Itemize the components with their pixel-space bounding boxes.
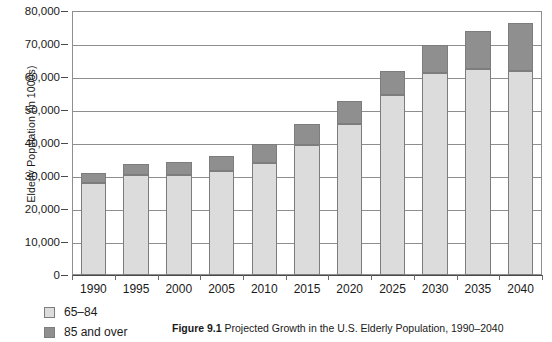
x-tick-mark [72, 275, 73, 280]
bar-segment-65-84[interactable] [166, 175, 192, 275]
bar-segment-65-84[interactable] [508, 71, 534, 275]
figure-caption: Figure 9.1 Projected Growth in the U.S. … [172, 322, 550, 335]
bar-segment-65-84[interactable] [81, 183, 107, 275]
bar-segment-85-and-over[interactable] [294, 124, 320, 145]
y-axis-ticks: 80,00070,00060,00050,00040,00030,00020,0… [0, 0, 72, 342]
figure-caption-text: Projected Growth in the U.S. Elderly Pop… [222, 322, 504, 334]
bar-segment-85-and-over[interactable] [252, 144, 278, 162]
x-tick-label: 2030 [422, 282, 449, 296]
x-tick-label: 2020 [336, 282, 363, 296]
x-tick-label: 1995 [123, 282, 150, 296]
x-tick-label: 2035 [465, 282, 492, 296]
y-tick-label: 80,000 [25, 5, 60, 17]
bar-segment-85-and-over[interactable] [422, 45, 448, 72]
y-tick-label: 60,000 [25, 71, 60, 83]
y-tick-label: 10,000 [25, 236, 60, 248]
y-tick-label: 30,000 [25, 170, 60, 182]
x-tick-mark [286, 275, 287, 280]
bar-segment-65-84[interactable] [252, 163, 278, 276]
bar-segment-65-84[interactable] [465, 69, 491, 275]
x-tick-label: 2025 [379, 282, 406, 296]
y-tick-label: 40,000 [25, 137, 60, 149]
bar-segment-85-and-over[interactable] [465, 31, 491, 69]
bar-group[interactable] [294, 11, 320, 275]
bar-segment-65-84[interactable] [337, 124, 363, 276]
bar-group[interactable] [166, 11, 192, 275]
legend-swatch-icon [44, 307, 55, 318]
y-tick-label: 20,000 [25, 203, 60, 215]
bar-segment-65-84[interactable] [123, 175, 149, 275]
x-tick-label: 2000 [165, 282, 192, 296]
figure-caption-number: Figure 9.1 [172, 322, 222, 334]
bar-group[interactable] [252, 11, 278, 275]
bar-segment-85-and-over[interactable] [81, 173, 107, 183]
x-tick-label: 2005 [208, 282, 235, 296]
x-tick-mark [243, 275, 244, 280]
bar-group[interactable] [337, 11, 363, 275]
bar-segment-65-84[interactable] [380, 95, 406, 275]
bar-segment-65-84[interactable] [294, 145, 320, 275]
x-tick-label: 1990 [80, 282, 107, 296]
bar-group[interactable] [465, 11, 491, 275]
y-tick-label: 70,000 [25, 38, 60, 50]
y-tick-mark [61, 11, 68, 12]
bars-layer [72, 11, 542, 275]
y-tick-mark [61, 143, 68, 144]
bar-segment-85-and-over[interactable] [166, 162, 192, 175]
y-tick-mark [61, 176, 68, 177]
x-tick-mark [371, 275, 372, 280]
bar-segment-65-84[interactable] [422, 73, 448, 275]
x-tick-label: 2010 [251, 282, 278, 296]
x-tick-mark [414, 275, 415, 280]
bar-group[interactable] [209, 11, 235, 275]
y-tick-mark [61, 77, 68, 78]
x-tick-mark [457, 275, 458, 280]
x-tick-mark [115, 275, 116, 280]
x-tick-mark [542, 275, 543, 280]
x-tick-mark [158, 275, 159, 280]
bar-group[interactable] [81, 11, 107, 275]
bar-group[interactable] [508, 11, 534, 275]
x-tick-label: 2040 [507, 282, 534, 296]
x-tick-mark [328, 275, 329, 280]
bar-segment-85-and-over[interactable] [209, 156, 235, 172]
y-tick-label: 0 [54, 269, 60, 281]
y-tick-mark [61, 242, 68, 243]
legend-label: 85 and over [64, 325, 127, 339]
bar-segment-65-84[interactable] [209, 171, 235, 275]
bar-segment-85-and-over[interactable] [337, 101, 363, 123]
legend-swatch-icon [44, 327, 55, 338]
bar-segment-85-and-over[interactable] [508, 23, 534, 71]
bar-group[interactable] [380, 11, 406, 275]
y-tick-mark [61, 110, 68, 111]
bar-group[interactable] [422, 11, 448, 275]
legend-label: 65–84 [64, 305, 97, 319]
bar-group[interactable] [123, 11, 149, 275]
legend-item[interactable]: 65–84 [44, 303, 234, 321]
figure-container: Elderly Population (in 1000s) 80,00070,0… [0, 0, 552, 342]
x-axis-ticks: 1990199520002005201020152020202520302035… [72, 275, 542, 305]
x-tick-mark [200, 275, 201, 280]
x-tick-label: 2015 [294, 282, 321, 296]
bar-segment-85-and-over[interactable] [123, 164, 149, 175]
y-tick-label: 50,000 [25, 104, 60, 116]
y-tick-mark [61, 44, 68, 45]
y-tick-mark [61, 209, 68, 210]
bar-segment-85-and-over[interactable] [380, 71, 406, 95]
x-tick-mark [499, 275, 500, 280]
y-tick-mark [61, 275, 68, 276]
